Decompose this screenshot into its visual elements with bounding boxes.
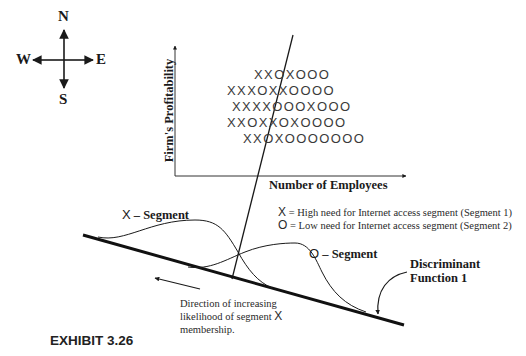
direction-note-text: Direction of increasing likelihood of se… (180, 298, 277, 322)
x-axis-label: Number of Employees (269, 178, 388, 193)
y-axis-label: Firm's Profitability (162, 46, 177, 176)
scatter-row: XXOXOOOOOOO (243, 131, 365, 146)
x-segment-curve (98, 220, 272, 288)
scatter-row: XXXXOOOXOOO (232, 99, 351, 114)
legend-symbol-x: X (278, 205, 286, 219)
discriminant-function-label: Discriminant Function 1 (410, 257, 480, 285)
compass-east-label: E (96, 51, 106, 68)
legend-item-segment-2: O = Low need for Internet access segment… (278, 218, 512, 232)
x-symbol: X (122, 207, 131, 222)
compass-west-label: W (16, 51, 31, 68)
legend-symbol-o: O (278, 218, 287, 232)
legend-text: = High need for Internet access segment … (289, 207, 512, 218)
direction-note: Direction of increasing likelihood of se… (180, 297, 320, 336)
o-segment-text: – Segment (322, 247, 377, 261)
o-segment-label: O – Segment (309, 246, 377, 262)
exhibit-caption: EXHIBIT 3.26 (50, 333, 133, 348)
x-segment-text: – Segment (134, 208, 189, 222)
legend-text: = Low need for Internet access segment (… (290, 220, 512, 231)
scatter-row: XXXOXXOOOO (227, 83, 335, 98)
compass-icon (33, 30, 93, 88)
compass-north-label: N (58, 8, 69, 25)
scatter-row: XXOXOOO (254, 67, 330, 82)
discriminant-label-line1: Discriminant (410, 257, 480, 271)
discriminant-label-line2: Function 1 (410, 271, 480, 285)
legend-item-segment-1: X = High need for Internet access segmen… (278, 205, 512, 219)
x-segment-label: X – Segment (122, 207, 189, 223)
direction-note-text-end: membership. (180, 324, 235, 335)
discriminant-pointer-icon (378, 272, 407, 314)
compass-south-label: S (59, 91, 67, 108)
direction-arrow-icon (155, 278, 200, 289)
o-symbol: O (309, 246, 319, 261)
scatter-row: XXOXXOXOOOO (227, 115, 346, 130)
direction-note-symbol: X (274, 309, 282, 323)
